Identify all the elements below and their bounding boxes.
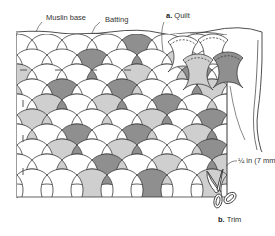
quilt-label: a. Quilt [166, 12, 190, 20]
measurement-leader [226, 161, 237, 166]
muslin-base-label: Muslin base [46, 14, 86, 22]
measurement-label: ¼ in (7 mm) [238, 157, 275, 165]
measurement-leader-top [230, 86, 245, 140]
trim-label-letter: b. [218, 215, 225, 224]
trim-label: b. Trim [218, 216, 241, 224]
quilt-illustration [0, 0, 275, 236]
trim-label-text: Trim [227, 215, 242, 224]
batting-label: Batting [105, 16, 128, 24]
muslin-leader [36, 22, 42, 32]
quilt-label-text: Quilt [174, 11, 189, 20]
batting-leader [92, 22, 100, 33]
quilt-diagram: Muslin base Batting a. Quilt ¼ in (7 mm)… [0, 0, 275, 236]
quilt-label-letter: a. [166, 11, 172, 20]
